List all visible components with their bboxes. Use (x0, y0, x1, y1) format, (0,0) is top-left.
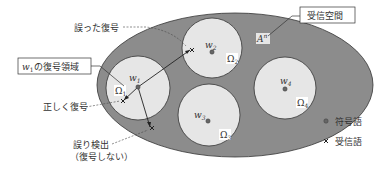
svg-text:受信語: 受信語 (335, 136, 362, 147)
codeword-dot-icon (324, 119, 328, 123)
omega-label-1: Ω1 (114, 85, 126, 97)
receive-space-box: 受信空間 (300, 7, 355, 23)
omega-label-3: Ω3 (219, 129, 231, 141)
codeword-dot-icon (206, 119, 210, 123)
codeword-dot-icon (283, 87, 287, 91)
received-word-cross-icon (324, 139, 328, 143)
error-detect-label: 誤り検出 (73, 139, 109, 150)
wrong-decode-label: 誤った復号 (74, 22, 119, 33)
omega-label-4: Ω4 (296, 97, 308, 109)
correct-decode-label: 正しく復号 (43, 101, 88, 112)
svg-text:符号語: 符号語 (335, 116, 362, 127)
codeword-dot-icon (136, 85, 140, 89)
decode-region-box: w1の復号領域 (18, 58, 91, 74)
omega-label-2: Ω2 (226, 53, 238, 65)
svg-text:受信空間: 受信空間 (307, 10, 343, 21)
space-symbol-label: An (256, 32, 270, 44)
error-detect-sublabel: （復号しない） (70, 151, 133, 162)
receive-space-diagram: w1 w2 w3 w4 Ω1 Ω2 Ω3 Ω4 An 受信空間 w1の復号領域 (0, 0, 383, 173)
